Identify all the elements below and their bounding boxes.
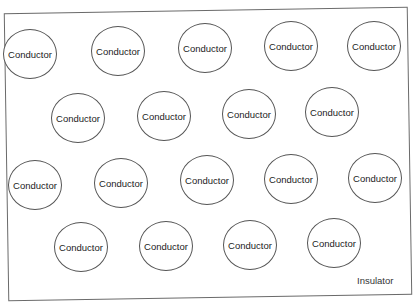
- conductor-node: Conductor: [307, 218, 361, 268]
- conductor-node: Conductor: [51, 93, 105, 143]
- conductor-node: Conductor: [223, 220, 277, 270]
- conductor-node: Conductor: [180, 155, 234, 205]
- conductor-node: Conductor: [91, 26, 145, 76]
- conductor-node: Conductor: [139, 221, 193, 271]
- conductor-node: Conductor: [264, 154, 318, 204]
- conductor-node: Conductor: [54, 222, 108, 272]
- conductor-node: Conductor: [137, 91, 191, 141]
- conductor-node: Conductor: [222, 89, 276, 139]
- conductor-node: Conductor: [305, 87, 359, 137]
- conductor-node: Conductor: [8, 160, 62, 210]
- conductor-node: Conductor: [3, 29, 57, 79]
- insulator-label: Insulator: [357, 275, 393, 286]
- conductor-node: Conductor: [348, 153, 402, 203]
- conductor-node: Conductor: [94, 158, 148, 208]
- conductor-node: Conductor: [264, 21, 318, 71]
- conductor-node: Conductor: [178, 23, 232, 73]
- diagram-canvas: Conductor Conductor Conductor Conductor …: [0, 0, 414, 305]
- conductor-node: Conductor: [347, 21, 401, 71]
